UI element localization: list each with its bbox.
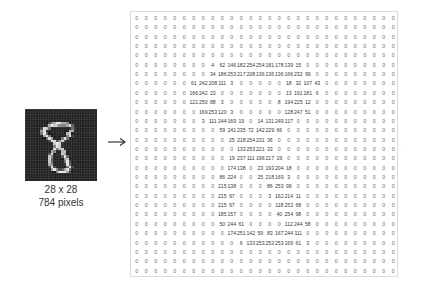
matrix-cell: 0 [208, 239, 218, 248]
matrix-cell: 61 [294, 239, 304, 248]
matrix-cell: 0 [180, 220, 190, 229]
matrix-cell: 0 [189, 136, 199, 145]
matrix-cell: 0 [132, 239, 142, 248]
matrix-cell: 0 [151, 98, 161, 107]
matrix-cell: 174 [227, 164, 237, 173]
matrix-cell: 0 [332, 33, 342, 42]
matrix-cell: 0 [218, 154, 228, 163]
matrix-cell: 0 [341, 145, 351, 154]
matrix-cell: 0 [284, 267, 294, 276]
matrix-cell: 0 [208, 257, 218, 266]
matrix-cell: 0 [313, 42, 323, 51]
matrix-cell: 0 [360, 145, 370, 154]
matrix-cell: 0 [275, 42, 285, 51]
matrix-cell: 0 [132, 117, 142, 126]
matrix-cell: 0 [351, 89, 361, 98]
matrix-cell: 0 [161, 33, 171, 42]
matrix-cell: 6 [313, 89, 323, 98]
matrix-cell: 0 [332, 173, 342, 182]
matrix-cell: 0 [256, 267, 266, 276]
matrix-cell: 0 [379, 154, 389, 163]
matrix-cell: 0 [189, 201, 199, 210]
matrix-cell: 0 [265, 220, 275, 229]
matrix-cell: 0 [360, 108, 370, 117]
matrix-cell: 0 [389, 239, 399, 248]
matrix-cell: 0 [189, 42, 199, 51]
matrix-cell: 0 [151, 154, 161, 163]
matrix-cell: 0 [199, 192, 209, 201]
matrix-cell: 0 [360, 98, 370, 107]
matrix-cell: 0 [389, 173, 399, 182]
matrix-cell: 0 [370, 239, 380, 248]
matrix-cell: 0 [218, 229, 228, 238]
matrix-cell: 0 [208, 42, 218, 51]
matrix-cell: 0 [389, 154, 399, 163]
matrix-cell: 0 [313, 154, 323, 163]
matrix-cell: 0 [341, 108, 351, 117]
matrix-cell: 0 [389, 33, 399, 42]
matrix-cell: 0 [275, 267, 285, 276]
matrix-cell: 0 [142, 248, 152, 257]
matrix-cell: 0 [389, 145, 399, 154]
matrix-cell: 0 [341, 42, 351, 51]
matrix-cell: 0 [379, 257, 389, 266]
matrix-cell: 0 [142, 33, 152, 42]
matrix-cell: 0 [360, 33, 370, 42]
matrix-cell: 0 [379, 33, 389, 42]
matrix-cell: 0 [142, 182, 152, 191]
matrix-cell: 0 [180, 145, 190, 154]
matrix-cell: 0 [370, 70, 380, 79]
matrix-cell: 0 [161, 257, 171, 266]
matrix-cell: 0 [360, 182, 370, 191]
matrix-cell: 0 [284, 154, 294, 163]
matrix-cell: 98 [294, 210, 304, 219]
matrix-cell: 0 [294, 14, 304, 23]
matrix-cell: 0 [322, 257, 332, 266]
matrix-cell: 0 [180, 229, 190, 238]
matrix-cell: 0 [332, 210, 342, 219]
matrix-cell: 0 [199, 51, 209, 60]
matrix-cell: 0 [189, 51, 199, 60]
matrix-cell: 0 [303, 257, 313, 266]
matrix-cell: 0 [132, 164, 142, 173]
matrix-cell: 0 [275, 51, 285, 60]
matrix-cell: 0 [360, 70, 370, 79]
matrix-cell: 0 [208, 33, 218, 42]
matrix-cell: 0 [199, 257, 209, 266]
matrix-cell: 0 [237, 108, 247, 117]
matrix-cell: 0 [379, 136, 389, 145]
matrix-cell: 0 [170, 70, 180, 79]
matrix-cell: 0 [360, 79, 370, 88]
matrix-cell: 0 [360, 126, 370, 135]
matrix-cell: 0 [132, 173, 142, 182]
matrix-cell: 0 [370, 257, 380, 266]
matrix-cell: 0 [199, 14, 209, 23]
matrix-cell: 0 [256, 108, 266, 117]
matrix-cell: 0 [170, 229, 180, 238]
matrix-cell: 0 [246, 248, 256, 257]
matrix-cell: 59 [256, 229, 266, 238]
matrix-cell: 0 [322, 33, 332, 42]
matrix-cell: 0 [303, 182, 313, 191]
matrix-cell: 0 [142, 173, 152, 182]
matrix-cell: 0 [142, 42, 152, 51]
matrix-cell: 0 [332, 108, 342, 117]
matrix-cell: 215 [218, 192, 228, 201]
matrix-cell: 0 [313, 70, 323, 79]
matrix-cell: 0 [199, 42, 209, 51]
matrix-cell: 0 [170, 257, 180, 266]
matrix-cell: 3 [199, 117, 209, 126]
matrix-cell: 0 [199, 210, 209, 219]
matrix-cell: 0 [142, 98, 152, 107]
matrix-cell: 0 [341, 79, 351, 88]
matrix-cell: 0 [360, 267, 370, 276]
matrix-cell: 0 [237, 248, 247, 257]
matrix-cell: 0 [246, 173, 256, 182]
matrix-cell: 62 [218, 61, 228, 70]
matrix-cell: 0 [351, 154, 361, 163]
matrix-cell: 0 [370, 192, 380, 201]
matrix-cell: 0 [332, 164, 342, 173]
matrix-cell: 0 [313, 201, 323, 210]
matrix-cell: 0 [303, 42, 313, 51]
matrix-cell: 0 [332, 23, 342, 32]
